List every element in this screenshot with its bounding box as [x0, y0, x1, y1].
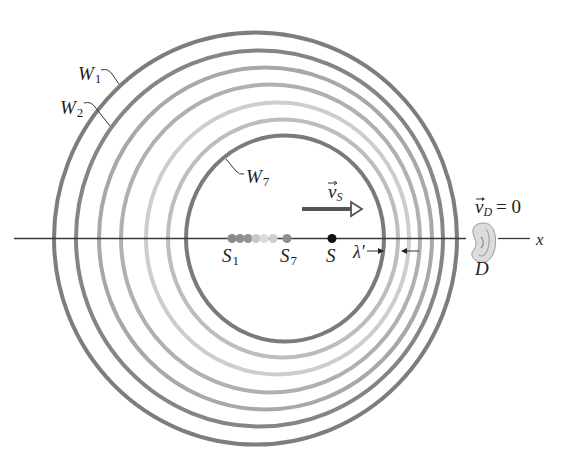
source-position-dot-6 — [269, 234, 278, 243]
source-position-dot-2 — [236, 234, 245, 243]
ear-detector-icon — [472, 223, 496, 262]
source-position-dot-4 — [252, 234, 261, 243]
vd-label: vD= 0 — [475, 196, 521, 219]
detector-label: D — [474, 258, 489, 279]
source-position-dot-5 — [260, 234, 269, 243]
source-position-dot-7 — [283, 234, 292, 243]
s-label: S — [326, 245, 336, 266]
s7-label: S7 — [280, 245, 298, 268]
current-source-dot — [328, 234, 337, 243]
vs-label: vS — [328, 181, 342, 204]
w1-leader-line — [101, 70, 119, 85]
w7-leader-line — [226, 159, 244, 174]
s1-label: S1 — [222, 245, 239, 268]
wavelength-label: λ′ — [352, 242, 366, 262]
doppler-diagram: x W1 W2 W7 S1 S7 S vS λ′ vD= 0 D — [0, 0, 564, 474]
source-position-dot-3 — [244, 234, 253, 243]
source-velocity-arrow-icon — [302, 202, 362, 216]
w1-label: W1 — [78, 63, 101, 86]
w7-label: W7 — [246, 166, 270, 189]
source-position-dot-1 — [228, 234, 237, 243]
x-axis-label: x — [535, 230, 544, 249]
w2-label: W2 — [60, 97, 83, 120]
